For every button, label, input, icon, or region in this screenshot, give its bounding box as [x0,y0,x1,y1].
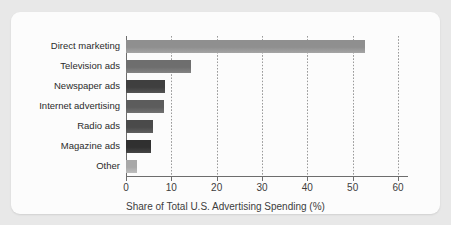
category-label-newspaper-ads: Newspaper ads [0,80,120,91]
bar-row [126,96,398,116]
category-label-radio-ads: Radio ads [0,120,120,131]
x-tick-label-50: 50 [333,182,373,193]
x-tick-30 [262,176,263,181]
x-axis-title: Share of Total U.S. Advertising Spending… [11,201,440,212]
bar-magazine-ads [126,140,151,153]
bar-row [126,136,398,156]
bar-radio-ads [126,120,153,133]
x-tick-10 [171,176,172,181]
category-axis-labels: Direct marketingTelevision adsNewspaper … [5,36,120,176]
bar-row [126,36,398,56]
x-tick-label-30: 30 [242,182,282,193]
category-label-other: Other [0,160,120,171]
x-axis-line [126,176,408,177]
x-tick-label-0: 0 [106,182,146,193]
bar-other [126,160,137,173]
chart-card: Direct marketingTelevision adsNewspaper … [11,12,440,214]
bar-row [126,56,398,76]
bar-series [126,36,398,176]
x-tick-label-60: 60 [378,182,418,193]
chart-page: Direct marketingTelevision adsNewspaper … [0,0,451,225]
category-label-direct-marketing: Direct marketing [0,40,120,51]
x-tick-50 [353,176,354,181]
plot-area [126,36,398,176]
bar-direct-marketing [126,40,365,53]
gridline-60 [398,36,399,176]
bar-internet-advertising [126,100,164,113]
x-tick-40 [307,176,308,181]
x-tick-label-20: 20 [197,182,237,193]
category-label-internet-advertising: Internet advertising [0,100,120,111]
category-label-magazine-ads: Magazine ads [0,140,120,151]
x-tick-20 [217,176,218,181]
x-tick-label-10: 10 [151,182,191,193]
bar-row [126,76,398,96]
bar-row [126,156,398,176]
x-tick-60 [398,176,399,181]
category-label-television-ads: Television ads [0,60,120,71]
bar-row [126,116,398,136]
bar-television-ads [126,60,191,73]
bar-newspaper-ads [126,80,165,93]
x-tick-label-40: 40 [287,182,327,193]
x-tick-0 [126,176,127,181]
